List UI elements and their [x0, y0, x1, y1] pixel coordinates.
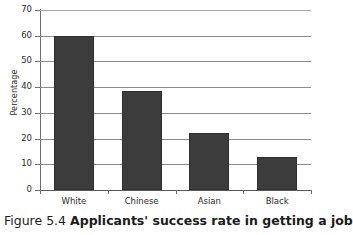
x-axis-category-label: Black: [243, 196, 311, 206]
y-axis-tick-mark: [35, 139, 40, 140]
gridline: [40, 10, 311, 11]
x-axis-tick-mark: [40, 190, 41, 194]
bar: [257, 157, 297, 190]
y-axis-tick-mark: [35, 164, 40, 165]
y-axis-tick-label: 10: [21, 159, 32, 168]
y-axis-title: Percentage: [10, 48, 19, 138]
y-axis-tick-mark: [35, 36, 40, 37]
y-axis-tick-label: 20: [21, 134, 32, 143]
y-axis-tick-label: 70: [21, 5, 32, 14]
bar-chart: Percentage 010203040506070WhiteChineseAs…: [0, 0, 320, 212]
y-axis-tick-label: 0: [27, 185, 32, 194]
y-axis-tick-label: 30: [21, 108, 32, 117]
y-axis-tick: 50: [35, 61, 40, 62]
y-axis-tick: 60: [35, 36, 40, 37]
y-axis-tick: 10: [35, 164, 40, 165]
x-axis-category-label: White: [40, 196, 108, 206]
y-axis-tick: 20: [35, 139, 40, 140]
x-axis-tick-mark: [243, 190, 244, 194]
bar: [122, 91, 162, 190]
x-axis-tick-mark: [311, 190, 312, 194]
x-axis-tick-mark: [108, 190, 109, 194]
x-axis-category-label: Asian: [176, 196, 244, 206]
x-axis-category-label: Chinese: [108, 196, 176, 206]
caption-number: Figure 5.4: [4, 213, 66, 228]
figure-caption: Figure 5.4 Applicants' success rate in g…: [4, 213, 318, 229]
bar: [189, 133, 229, 190]
caption-text: Applicants' success rate in getting a jo…: [70, 213, 353, 228]
y-axis-tick-label: 60: [21, 31, 32, 40]
y-axis-tick: 40: [35, 87, 40, 88]
y-axis-tick-label: 50: [21, 56, 32, 65]
y-axis-tick-label: 40: [21, 82, 32, 91]
bar: [54, 36, 94, 190]
y-axis-tick-mark: [35, 10, 40, 11]
x-axis-tick-mark: [176, 190, 177, 194]
y-axis-tick-mark: [35, 87, 40, 88]
y-axis-tick-mark: [35, 61, 40, 62]
y-axis-tick: 30: [35, 113, 40, 114]
y-axis-tick-mark: [35, 113, 40, 114]
y-axis-tick: 70: [35, 10, 40, 11]
